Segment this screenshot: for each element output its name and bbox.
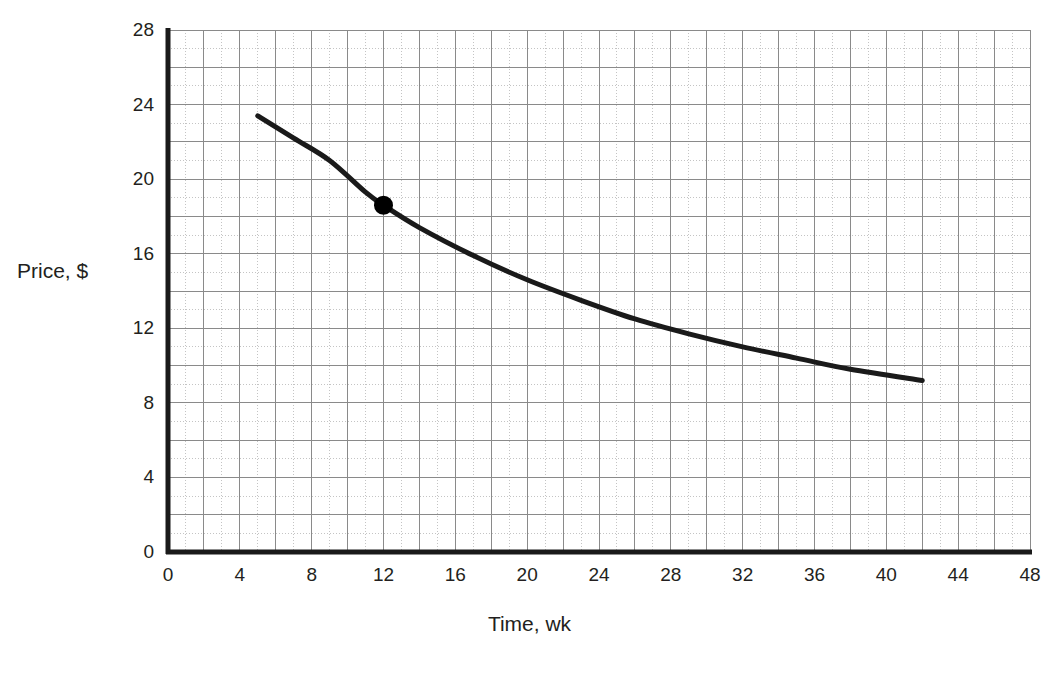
data-series-layer [258, 116, 922, 381]
price-vs-time-chart: Price, $ Time, wk 0481216202428048121620… [0, 0, 1059, 676]
series-line-0 [258, 116, 922, 381]
data-point-markers [374, 196, 393, 215]
major-gridlines [168, 30, 1030, 552]
highlighted-point-marker [374, 196, 393, 215]
plot-area [0, 0, 1059, 676]
